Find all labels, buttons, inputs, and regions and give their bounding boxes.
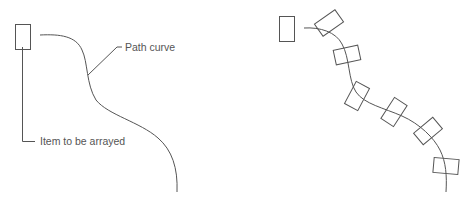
path-curve-label: Path curve: [125, 41, 175, 53]
arrayed-path-curve: [304, 28, 446, 192]
original-item-rect: [280, 17, 295, 42]
path-curve-leader-line: [88, 47, 122, 75]
right-panel: [280, 10, 460, 192]
arrayed-item-rect-2: [333, 45, 361, 65]
item-leader-line: [23, 47, 36, 142]
arrayed-item-rect-4: [381, 97, 407, 126]
arrayed-item-rect-3: [345, 81, 370, 110]
path-curve: [40, 35, 177, 192]
arrayed-item-rect-1: [314, 10, 343, 37]
array-along-path-diagram: Path curve Item to be arrayed: [0, 0, 470, 204]
item-to-be-arrayed-label: Item to be arrayed: [40, 135, 125, 147]
item-to-array-rect: [16, 25, 31, 50]
arrayed-item-rect-5: [414, 117, 443, 145]
arrayed-items-group: [314, 10, 459, 175]
left-panel: Path curve Item to be arrayed: [16, 25, 178, 193]
